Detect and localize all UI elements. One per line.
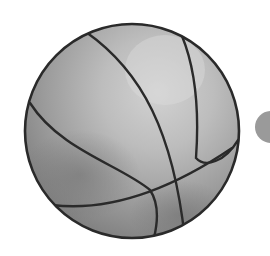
- basketball-scene: [0, 0, 270, 256]
- basketball-icon: [20, 24, 239, 250]
- illustration-canvas: [0, 0, 270, 256]
- side-circle-shape: [255, 111, 270, 143]
